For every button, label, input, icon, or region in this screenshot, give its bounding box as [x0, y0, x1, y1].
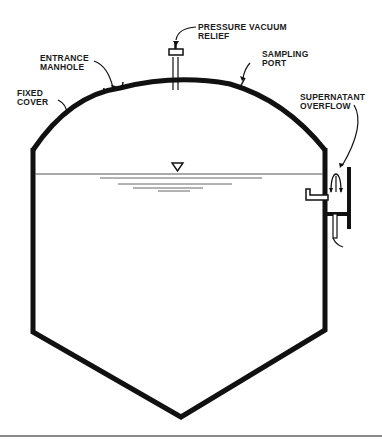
supernatant-overflow-assembly: [306, 167, 351, 247]
sampling-leader: [243, 63, 250, 78]
label-supernatant-overflow: SUPERNATANTOVERFLOW: [300, 93, 365, 111]
label-sampling-port: SAMPLINGPORT: [262, 50, 308, 68]
footer-rule: [0, 435, 382, 437]
manhole-leader: [94, 61, 113, 88]
fixed-cover-dome: [33, 80, 325, 150]
water-level-triangle-icon: [172, 163, 183, 171]
relief-leader: [176, 27, 196, 40]
overflow-leader: [342, 105, 358, 166]
liquid-surface: [35, 174, 323, 191]
label-pressure-vacuum-relief: PRESSURE VACUUMRELIEF: [198, 23, 287, 41]
label-fixed-cover: FIXEDCOVER: [17, 89, 48, 107]
label-entrance-manhole: ENTRANCEMANHOLE: [40, 54, 89, 72]
